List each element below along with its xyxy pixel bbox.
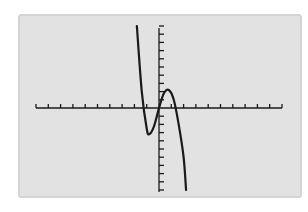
graph bbox=[0, 0, 308, 212]
